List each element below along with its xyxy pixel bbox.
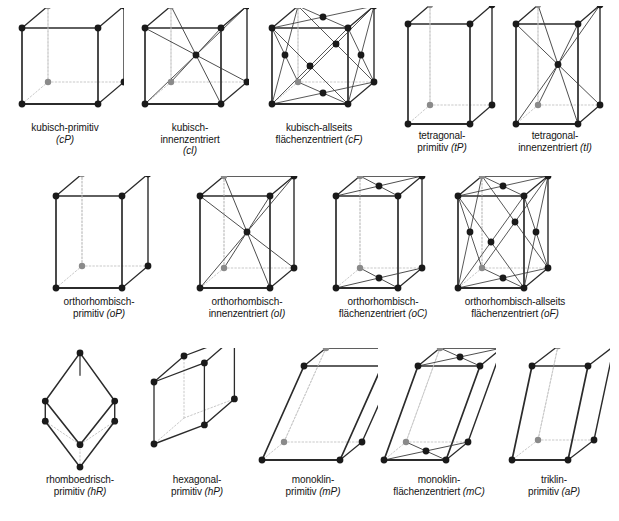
lattice-point (301, 363, 308, 370)
lattice-point (145, 263, 152, 270)
lattice-point (395, 285, 402, 292)
caption-mC: monoklin-flächenzentriert (mC) (368, 474, 510, 497)
caption-symbol: (cP) (56, 134, 74, 145)
caption-line: primitiv (aP) (496, 486, 612, 498)
unit-cell-drawing-oF (444, 176, 566, 294)
lattice-point (151, 379, 158, 386)
lattice-point-back (221, 176, 227, 179)
lattice-point (111, 398, 118, 405)
lattice-point-back (427, 102, 433, 108)
unit-cell-drawing-aP (498, 348, 610, 472)
caption-line: primitiv (oP) (32, 308, 166, 320)
caption-line: innenzentriert (128, 134, 252, 146)
lattice-point (53, 193, 60, 200)
lattice-point-back (479, 265, 485, 271)
caption-cP: kubisch-primitiv(cP) (4, 122, 126, 145)
unit-cell-drawing-cF (258, 8, 380, 120)
face-center-point (500, 183, 507, 190)
lattice-point (267, 193, 274, 200)
caption-aP: triklin-primitiv (aP) (496, 474, 612, 497)
lattice-point (381, 457, 388, 464)
caption-cF: kubisch-allseitsflächenzentriert (cF) (250, 122, 388, 145)
unit-cell-drawing-oC (322, 176, 434, 294)
caption-symbol: (cF) (345, 134, 362, 145)
lattice-point (218, 25, 225, 32)
caption-oP: orthorhombisch-primitiv (oP) (32, 296, 166, 319)
unit-cell-drawing-mP (256, 348, 378, 472)
lattice-point (151, 441, 158, 448)
caption-oC: orthorhombisch-flächenzentriert (oC) (312, 296, 454, 319)
caption-symbol: (tP) (451, 142, 467, 153)
unit-cell-drawing-cI (131, 8, 249, 120)
lattice-point-back (427, 6, 433, 8)
lattice-point (465, 439, 472, 446)
lattice-point (19, 101, 26, 108)
caption-line: tetragonal- (384, 130, 500, 142)
unit-cell-drawing-tI (502, 6, 614, 130)
lattice-point (119, 193, 126, 200)
lattice-point (333, 193, 340, 200)
caption-symbol: (tI) (580, 142, 592, 153)
lattice-point-back (79, 263, 85, 269)
lattice-point (565, 457, 572, 464)
lattice-point-back (535, 6, 541, 8)
unit-cell-oC (322, 176, 434, 294)
caption-line: (cI) (128, 145, 252, 157)
unit-cell-aP (498, 348, 610, 472)
lattice-point (455, 193, 462, 200)
lattice-point (545, 265, 552, 272)
caption-line: orthorhombisch- (176, 296, 318, 308)
lattice-point (201, 360, 208, 367)
caption-line: (cP) (4, 134, 126, 146)
lattice-point-back (357, 176, 363, 179)
lattice-point (489, 102, 496, 109)
lattice-point (521, 193, 528, 200)
lattice-point (201, 422, 208, 429)
face-center-point (333, 41, 340, 48)
lattice-point (267, 285, 274, 292)
face-center-point (320, 14, 327, 21)
caption-symbol: (aP) (562, 486, 581, 497)
face-center-point (423, 448, 430, 455)
body-center-point (193, 52, 200, 59)
lattice-point (19, 25, 26, 32)
face-center-point (358, 52, 365, 59)
unit-cell-cP (6, 8, 124, 120)
caption-tI: tetragonal-innenzentriert (tI) (492, 130, 618, 153)
unit-cell-hP (142, 348, 252, 472)
unit-cell-tI (502, 6, 614, 130)
caption-line: monoklin- (250, 474, 376, 486)
caption-line: flächenzentriert (oF) (434, 308, 596, 320)
lattice-point (119, 285, 126, 292)
caption-line: kubisch-allseits (250, 122, 388, 134)
caption-mP: monoklin-primitiv (mP) (250, 474, 376, 497)
unit-cell-drawing-hR (24, 348, 136, 472)
body-center-point (555, 61, 562, 68)
face-center-point (307, 63, 314, 70)
lattice-point-back (323, 348, 329, 351)
caption-symbol: (oI) (271, 308, 286, 319)
unit-cell-drawing-oP (42, 176, 158, 294)
lattice-point (359, 439, 366, 446)
lattice-point (405, 21, 412, 28)
caption-oF: orthorhombisch-allseitsflächenzentriert … (434, 296, 596, 319)
caption-line: primitiv (hP) (136, 486, 258, 498)
lattice-point (345, 25, 352, 32)
unit-cell-oI (186, 176, 306, 294)
face-center-point (376, 275, 383, 282)
lattice-point (197, 193, 204, 200)
caption-line: tetragonal- (492, 130, 618, 142)
lattice-point (95, 101, 102, 108)
lattice-point (42, 418, 49, 425)
face-center-point (376, 183, 383, 190)
unit-cell-drawing-cP (6, 8, 124, 120)
lattice-point (477, 363, 484, 370)
lattice-point (405, 121, 412, 128)
lattice-point (371, 79, 378, 86)
lattice-point (489, 6, 496, 8)
caption-line: hexagonal- (136, 474, 258, 486)
caption-line: triklin- (496, 474, 612, 486)
lattice-point (585, 363, 592, 370)
lattice-point-back (45, 79, 51, 85)
caption-line: primitiv (tP) (384, 142, 500, 154)
